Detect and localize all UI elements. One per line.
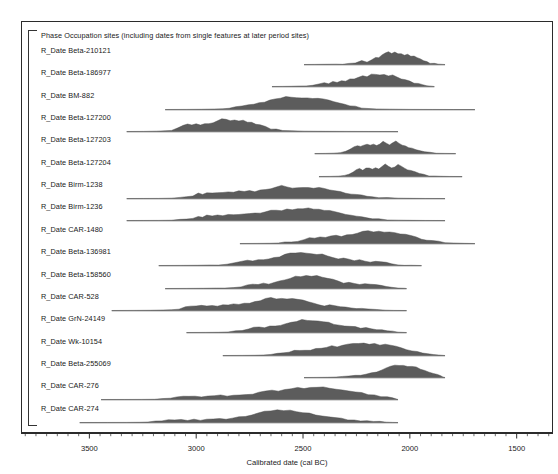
distribution-area: [240, 230, 475, 243]
probability-distribution: [22, 68, 554, 90]
axis-tick-label: 2500: [295, 444, 312, 453]
distribution-row: R_Date Beta-255069: [22, 359, 552, 381]
distribution-rows: R_Date Beta-210121R_Date Beta-186977R_Da…: [22, 22, 552, 432]
probability-distribution: [22, 135, 554, 157]
distribution-area: [319, 164, 462, 176]
distribution-row: R_Date Beta-158560: [22, 270, 552, 292]
distribution-area: [272, 75, 434, 87]
distribution-area: [127, 185, 445, 198]
probability-distribution: [22, 337, 554, 359]
distribution-area: [101, 387, 398, 400]
distribution-area: [315, 141, 456, 153]
probability-distribution: [22, 247, 554, 269]
distribution-area: [223, 343, 445, 355]
distribution-row: R_Date Beta-186977: [22, 68, 552, 90]
distribution-area: [127, 208, 445, 221]
axis-tick-label: 2000: [401, 444, 418, 453]
x-axis: 35003000250020001500 Calibrated date (ca…: [21, 433, 553, 474]
distribution-row: R_Date CAR-528: [22, 292, 552, 314]
probability-distribution: [22, 292, 554, 314]
distribution-row: R_Date Beta-136981: [22, 247, 552, 269]
distribution-row: R_Date Wk-10154: [22, 337, 552, 359]
x-axis-title: Calibrated date (cal BC): [21, 458, 553, 467]
probability-distribution: [22, 404, 554, 426]
distribution-row: R_Date Beta-127203: [22, 135, 552, 157]
distribution-row: R_Date CAR-274: [22, 404, 552, 426]
distribution-area: [165, 96, 475, 109]
distribution-row: R_Date CAR-276: [22, 381, 552, 403]
probability-distribution: [22, 225, 554, 247]
probability-distribution: [22, 180, 554, 202]
distribution-area: [304, 365, 445, 377]
distribution-row: R_Date Beta-210121: [22, 46, 552, 68]
x-axis-ticks: [21, 433, 553, 453]
probability-distribution: [22, 314, 554, 336]
axis-tick-label: 3000: [188, 444, 205, 453]
probability-distribution: [22, 113, 554, 135]
distribution-area: [159, 253, 422, 266]
figure-root: Phase Occupation sites (including dates …: [0, 0, 558, 474]
probability-distribution: [22, 359, 554, 381]
probability-distribution: [22, 381, 554, 403]
distribution-area: [165, 275, 406, 288]
distribution-row: R_Date Birm-1236: [22, 202, 552, 224]
distribution-row: R_Date Beta-127204: [22, 158, 552, 180]
distribution-area: [127, 119, 398, 132]
distribution-row: R_Date GrN-24149: [22, 314, 552, 336]
distribution-area: [80, 409, 398, 422]
distribution-row: R_Date CAR-1480: [22, 225, 552, 247]
distribution-row: R_Date BM-882: [22, 91, 552, 113]
plot-frame: Phase Occupation sites (including dates …: [21, 21, 553, 433]
axis-tick-label: 1500: [508, 444, 525, 453]
probability-distribution: [22, 158, 554, 180]
probability-distribution: [22, 91, 554, 113]
distribution-area: [112, 297, 407, 310]
distribution-row: R_Date Birm-1238: [22, 180, 552, 202]
distribution-area: [187, 320, 407, 333]
axis-tick-label: 3500: [81, 444, 98, 453]
distribution-row: R_Date Beta-127200: [22, 113, 552, 135]
probability-distribution: [22, 202, 554, 224]
probability-distribution: [22, 46, 554, 68]
distribution-area: [304, 52, 445, 65]
probability-distribution: [22, 270, 554, 292]
